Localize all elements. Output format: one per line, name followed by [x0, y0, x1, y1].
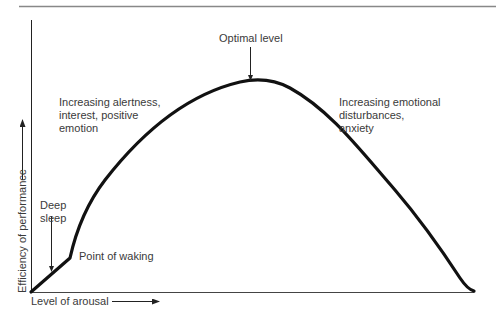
optimal-level-label: Optimal level: [219, 32, 283, 45]
x-axis-label: Level of arousal: [31, 295, 109, 308]
diagram-canvas: [0, 0, 496, 321]
point-of-waking-label: Point of waking: [79, 250, 154, 263]
left-region-label: Increasing alertness, interest, positive…: [59, 96, 161, 135]
deep-sleep-label: Deep sleep: [40, 199, 66, 225]
y-axis-label: Efficiency of performance: [16, 169, 29, 293]
right-region-label: Increasing emotional disturbances, anxie…: [339, 96, 441, 135]
